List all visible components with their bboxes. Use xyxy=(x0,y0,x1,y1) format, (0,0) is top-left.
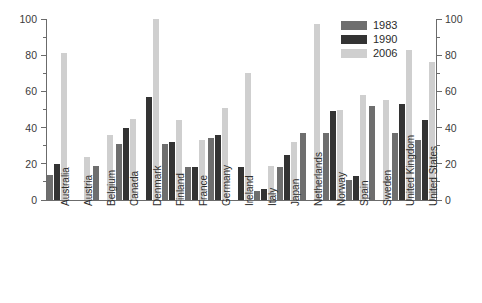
bar-norway-1990 xyxy=(330,111,336,200)
y-tick-right-40 xyxy=(437,127,442,128)
bar-france-1983 xyxy=(185,167,191,200)
legend-swatch-1990 xyxy=(341,35,367,44)
x-label-sweden: Sweden xyxy=(383,170,393,206)
legend-swatch-1983 xyxy=(341,21,367,30)
x-label-belgium: Belgium xyxy=(107,170,117,206)
legend-label-2006: 2006 xyxy=(373,48,397,59)
x-label-austria: Austria xyxy=(84,175,94,206)
y-tick-label-left-60: 60 xyxy=(25,86,37,96)
y-tick-label-right-20: 20 xyxy=(445,159,457,169)
chart-legend: 198319902006 xyxy=(341,19,397,59)
legend-swatch-2006 xyxy=(341,49,367,58)
bar-finland-1983 xyxy=(162,144,168,200)
y-tick-label-right-60: 60 xyxy=(445,86,457,96)
x-label-italy: Italy xyxy=(268,188,278,206)
y-tick-label-right-40: 40 xyxy=(445,123,457,133)
bar-group xyxy=(185,19,205,200)
bar-group xyxy=(254,19,274,200)
y-tick-label-right-100: 100 xyxy=(445,14,463,24)
x-label-netherlands: Netherlands xyxy=(314,152,324,206)
legend-entry-2006: 2006 xyxy=(341,47,397,59)
bar-australia-1983 xyxy=(47,175,53,200)
x-label-spain: Spain xyxy=(360,180,370,206)
bar-united-states-1990 xyxy=(422,120,428,200)
x-label-united-states: United States xyxy=(429,146,439,206)
x-label-finland: Finland xyxy=(176,173,186,206)
y-tick-right-70 xyxy=(437,73,440,74)
y-tick-right-100 xyxy=(437,19,442,20)
bar-chart: 002020404060608080100100 AustraliaAustri… xyxy=(0,0,482,303)
x-label-japan: Japan xyxy=(291,179,301,206)
y-tick-label-right-80: 80 xyxy=(445,50,457,60)
bar-group xyxy=(70,19,90,200)
y-tick-label-left-100: 100 xyxy=(19,14,37,24)
legend-label-1983: 1983 xyxy=(373,20,397,31)
legend-entry-1990: 1990 xyxy=(341,33,397,45)
bar-group xyxy=(277,19,297,200)
x-label-canada: Canada xyxy=(130,171,140,206)
x-label-france: France xyxy=(199,175,209,206)
bar-united-kingdom-1990 xyxy=(399,104,405,200)
y-tick-label-left-0: 0 xyxy=(31,195,37,205)
x-label-ireland: Ireland xyxy=(245,175,255,206)
x-label-denmark: Denmark xyxy=(153,165,163,206)
legend-label-1990: 1990 xyxy=(373,34,397,45)
y-tick-right-50 xyxy=(437,109,440,110)
bar-japan-1990 xyxy=(284,155,290,200)
y-tick-label-left-40: 40 xyxy=(25,123,37,133)
y-tick-label-left-20: 20 xyxy=(25,159,37,169)
y-tick-right-90 xyxy=(437,37,440,38)
x-label-norway: Norway xyxy=(337,172,347,206)
x-axis-spine xyxy=(46,200,437,201)
x-label-united-kingdom: United Kingdom xyxy=(406,135,416,206)
bar-spain-1990 xyxy=(353,176,359,200)
y-tick-right-60 xyxy=(437,91,442,92)
y-tick-right-80 xyxy=(437,55,442,56)
y-tick-label-right-0: 0 xyxy=(445,195,451,205)
x-label-germany: Germany xyxy=(222,165,232,206)
bar-belgium-1983 xyxy=(93,166,99,200)
bar-canada-1983 xyxy=(116,144,122,200)
y-tick-label-left-80: 80 xyxy=(25,50,37,60)
bar-group xyxy=(231,19,251,200)
x-label-australia: Australia xyxy=(61,167,71,206)
legend-entry-1983: 1983 xyxy=(341,19,397,31)
